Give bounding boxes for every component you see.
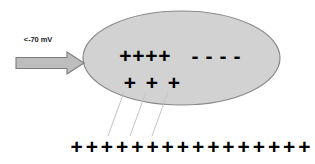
charge-symbol: + [119,45,132,66]
membrane-potential-label: <-70 mV [13,35,63,45]
charge-symbol: + [130,136,145,157]
charge-symbol: + [145,136,160,157]
connector-line-1 [108,92,124,136]
charge-symbol: + [251,136,266,157]
charge-symbol: + [297,136,312,157]
charge-symbol: + [141,72,163,93]
charge-symbol: + [221,136,236,157]
inner-positive-charges-top: ++++ [119,45,171,66]
charge-symbol: + [206,136,221,157]
charge-symbol: + [163,72,185,93]
charge-symbol: - [216,45,230,66]
charge-symbol: + [69,136,84,157]
inner-negative-charges-top: ---- [188,45,244,66]
charge-symbol: + [145,45,158,66]
charge-symbol: + [99,136,114,157]
charge-symbol: - [230,45,244,66]
charge-symbol: + [191,136,206,157]
charge-symbol: + [266,136,281,157]
charge-symbol: + [132,45,145,66]
charge-symbol: + [236,136,251,157]
figure-canvas: <-70 mV ++++ ---- +++ ++++++++++++++++ [0,0,315,164]
charge-symbol: + [175,136,190,157]
charge-symbol: + [160,136,175,157]
charge-symbol: + [115,136,130,157]
charge-symbol: + [158,45,171,66]
outer-positive-charge-row: ++++++++++++++++ [69,136,312,157]
inner-positive-charges-bottom: +++ [119,72,185,93]
charge-symbol: - [188,45,202,66]
charge-symbol: - [202,45,216,66]
charge-symbol: + [119,72,141,93]
stimulus-arrow-icon [16,52,84,74]
charge-symbol: + [282,136,297,157]
charge-symbol: + [84,136,99,157]
